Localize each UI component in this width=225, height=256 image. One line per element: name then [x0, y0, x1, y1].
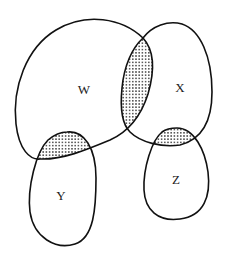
set-y-label: Y	[56, 188, 66, 203]
set-w-label: W	[78, 82, 91, 97]
shaded-intersection-w-x	[121, 23, 212, 146]
set-z-label: Z	[172, 172, 180, 187]
set-x-label: X	[175, 80, 185, 95]
venn-diagram: W X Y Z	[0, 0, 225, 256]
